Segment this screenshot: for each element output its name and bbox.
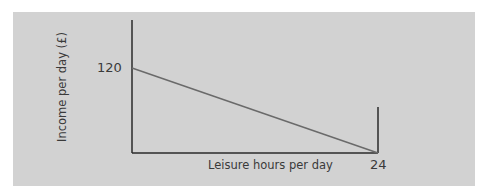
x-tick-24: 24 (370, 157, 387, 172)
y-tick-120: 120 (97, 60, 122, 75)
budget-line (132, 68, 378, 153)
y-axis-label: Income per day (£) (55, 32, 69, 142)
x-axis-label: Leisure hours per day (208, 158, 333, 172)
